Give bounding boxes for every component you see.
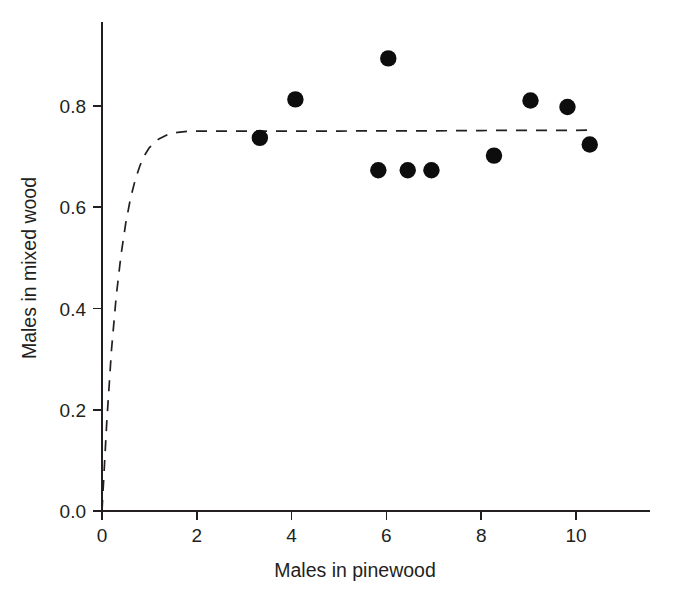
data-point [400, 162, 416, 178]
y-tick-label-3: 0.6 [60, 197, 86, 218]
x-tick-label-4: 8 [476, 525, 487, 546]
y-tick-label-2: 0.4 [60, 299, 87, 320]
y-axis-title: Males in mixed wood [18, 177, 40, 359]
x-tick-label-1: 2 [192, 525, 203, 546]
x-tick-label-0: 0 [97, 525, 108, 546]
y-tick-label-0: 0.0 [60, 501, 86, 522]
data-point [423, 162, 439, 178]
x-tick-label-2: 4 [286, 525, 297, 546]
data-point [522, 92, 538, 108]
y-tick-label-4: 0.8 [60, 96, 86, 117]
scatter-chart: 0.0 0.2 0.4 0.6 0.8 0 2 4 6 8 10 Males i… [0, 0, 677, 603]
data-point [380, 50, 396, 66]
data-point [559, 99, 575, 115]
data-point [252, 130, 268, 146]
data-point [287, 91, 303, 107]
data-point [582, 136, 598, 152]
data-point [370, 162, 386, 178]
y-tick-label-1: 0.2 [60, 400, 86, 421]
x-tick-label-5: 10 [565, 525, 586, 546]
x-tick-label-3: 6 [381, 525, 392, 546]
data-point [486, 147, 502, 163]
x-axis-title: Males in pinewood [274, 559, 436, 581]
